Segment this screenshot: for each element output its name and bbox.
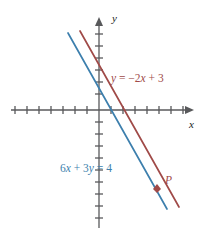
- blue-eq-equals: = 4: [94, 162, 112, 174]
- red-eq-plus: + 3: [146, 72, 164, 84]
- y-axis-arrow-icon: [95, 17, 103, 26]
- red-eq-coef: −2: [128, 72, 140, 84]
- coordinate-plane-svg: y x y = −2x + 3 6x + 3y = 4 P: [0, 0, 202, 235]
- blue-eq-plus: +: [71, 162, 83, 174]
- graph-figure: y x y = −2x + 3 6x + 3y = 4 P: [0, 0, 202, 235]
- blue-line-equation-label: 6x + 3y = 4: [60, 162, 112, 175]
- x-axis-arrow-icon: [185, 106, 194, 114]
- y-axis: [95, 17, 103, 228]
- point-p-label: P: [164, 174, 172, 186]
- red-eq-equals: =: [116, 72, 128, 84]
- y-axis-label: y: [111, 12, 117, 24]
- blue-line-6x-3y-4: [68, 33, 167, 209]
- x-axis-label: x: [188, 118, 194, 130]
- red-line-equation-label: y = −2x + 3: [110, 72, 164, 85]
- x-axis: [11, 106, 194, 114]
